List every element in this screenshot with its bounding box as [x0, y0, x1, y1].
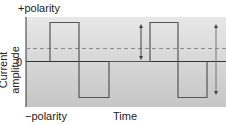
x-axis-label: Time — [113, 111, 137, 122]
y-axis-label: Current amplitude — [0, 30, 21, 110]
waveform-diagram — [0, 0, 226, 125]
positive-polarity-label: +polarity — [18, 3, 60, 14]
negative-polarity-label: −polarity — [25, 111, 67, 122]
